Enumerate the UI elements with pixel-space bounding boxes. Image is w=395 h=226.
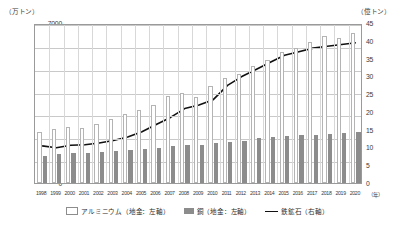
bar-copper: [314, 135, 318, 183]
x-axis-tick-label: 2006: [150, 190, 160, 196]
gridline-vertical: [277, 25, 278, 183]
x-axis-tick-label: 2001: [79, 190, 89, 196]
bar-aluminium: [37, 132, 41, 183]
bar-copper: [185, 145, 189, 183]
x-axis-tick-label: 2019: [336, 190, 346, 196]
x-axis-tick-label: 2009: [193, 190, 203, 196]
bar-aluminium: [322, 36, 326, 183]
bar-aluminium: [337, 38, 341, 183]
bar-aluminium: [308, 42, 312, 183]
bar-copper: [86, 153, 90, 183]
bar-copper: [200, 145, 204, 183]
x-axis-tick-label: 2017: [307, 190, 317, 196]
right-axis-tick-label: 20: [366, 109, 390, 116]
bar-copper: [43, 156, 47, 183]
bar-copper: [285, 136, 289, 183]
bar-aluminium: [180, 93, 184, 183]
bar-copper: [328, 134, 332, 183]
bar-aluminium: [52, 129, 56, 183]
gridline-vertical: [263, 25, 264, 183]
bar-copper: [342, 133, 346, 183]
bar-aluminium: [237, 74, 241, 183]
bar-copper: [128, 150, 132, 183]
gridline-vertical: [249, 25, 250, 183]
right-axis-tick-label: 0: [366, 180, 390, 187]
bar-aluminium: [223, 78, 227, 183]
bar-aluminium: [94, 124, 98, 183]
bar-aluminium: [251, 66, 255, 183]
bar-copper: [143, 149, 147, 183]
x-axis-tick-label: 2018: [321, 190, 331, 196]
bar-copper: [214, 143, 218, 183]
gridline-vertical: [320, 25, 321, 183]
bar-copper: [57, 154, 61, 183]
bar-copper: [71, 153, 75, 183]
right-axis-tick-label: 15: [366, 127, 390, 134]
x-axis-tick-label: 2015: [278, 190, 288, 196]
gridline-vertical: [206, 25, 207, 183]
bar-copper: [271, 137, 275, 183]
gridline-vertical: [192, 25, 193, 183]
plot-area: [34, 24, 362, 184]
bar-copper: [100, 152, 104, 183]
bar-aluminium: [123, 114, 127, 183]
bar-copper: [257, 138, 261, 183]
legend-item[interactable]: アルミニウム（地金：左軸）: [66, 206, 169, 216]
legend-item-label: アルミニウム（地金：左軸）: [81, 206, 169, 216]
x-axis-tick-label: 2007: [164, 190, 174, 196]
legend-item[interactable]: 鉄鉱石（右軸）: [265, 206, 329, 216]
legend-swatch-aluminium-icon: [66, 207, 78, 215]
x-axis-tick-label: 2014: [264, 190, 274, 196]
bar-aluminium: [194, 97, 198, 183]
x-axis-tick-label: 2000: [65, 190, 75, 196]
gridline-vertical: [64, 25, 65, 183]
x-axis-tick-label: 2004: [122, 190, 132, 196]
gridline-vertical: [292, 25, 293, 183]
bar-copper: [299, 135, 303, 183]
x-axis-tick-label: 2012: [236, 190, 246, 196]
x-axis-tick-label: 2016: [293, 190, 303, 196]
right-axis-tick-label: 45: [366, 20, 390, 27]
bar-aluminium: [208, 86, 212, 183]
gridline-vertical: [178, 25, 179, 183]
x-axis-tick-label: 1999: [50, 190, 60, 196]
x-axis-tick-label: 2010: [207, 190, 217, 196]
right-axis-unit-label: （億トン）: [357, 6, 391, 16]
x-axis-tick-label: 2011: [222, 190, 232, 196]
gridline-vertical: [106, 25, 107, 183]
legend-item-label: 銅（地金：左軸）: [197, 206, 251, 216]
x-axis-tick-label: 2002: [93, 190, 103, 196]
bar-aluminium: [137, 110, 141, 183]
gridline-vertical: [235, 25, 236, 183]
gridline-vertical: [163, 25, 164, 183]
bar-aluminium: [66, 127, 70, 183]
bar-aluminium: [265, 60, 269, 183]
gridline-vertical: [49, 25, 50, 183]
bar-aluminium: [109, 119, 113, 183]
gridline-vertical: [121, 25, 122, 183]
bar-copper: [157, 148, 161, 183]
gridline-vertical: [78, 25, 79, 183]
legend-swatch-copper-icon: [184, 208, 194, 214]
right-axis-tick-label: 10: [366, 144, 390, 151]
x-axis-tick-label: 1998: [36, 190, 46, 196]
gridline-vertical: [149, 25, 150, 183]
bar-aluminium: [351, 33, 355, 183]
x-axis-tick-label: 2008: [179, 190, 189, 196]
gridline-vertical: [349, 25, 350, 183]
right-axis-tick-label: 40: [366, 38, 390, 45]
bar-aluminium: [80, 128, 84, 183]
bar-aluminium: [280, 52, 284, 183]
legend-item[interactable]: 銅（地金：左軸）: [184, 206, 251, 216]
gridline-horizontal: [35, 25, 361, 26]
right-axis-tick-label: 5: [366, 162, 390, 169]
bar-copper: [228, 142, 232, 183]
bar-aluminium: [166, 96, 170, 183]
gridline-vertical: [135, 25, 136, 183]
bar-aluminium: [294, 48, 298, 183]
bar-copper: [171, 146, 175, 183]
gridline-vertical: [306, 25, 307, 183]
legend-swatch-iron-ore-icon: [265, 211, 278, 212]
gridline-vertical: [92, 25, 93, 183]
right-axis-tick-label: 25: [366, 91, 390, 98]
